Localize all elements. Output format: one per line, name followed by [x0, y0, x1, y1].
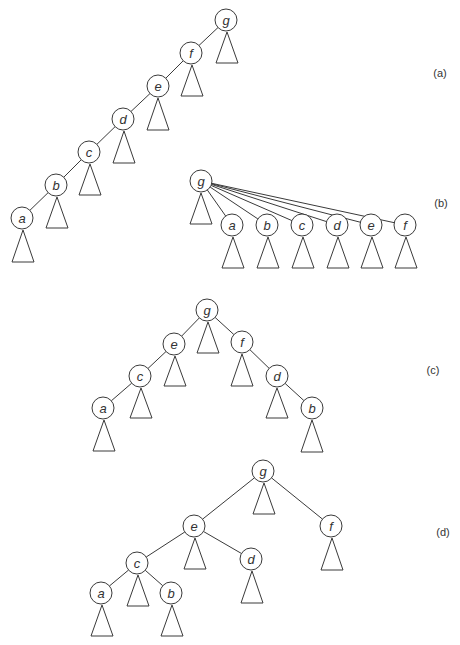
subtree-triangle-icon [113, 131, 135, 163]
subtree-triangle-icon [79, 164, 101, 195]
edge-b-a [30, 193, 48, 211]
edge-g-f [272, 478, 323, 519]
node-label: d [119, 112, 127, 127]
panel-label: (b) [434, 197, 447, 209]
subtree-triangle-icon [222, 237, 244, 268]
subtree-triangle-icon [266, 388, 288, 418]
subtree-triangle-icon [181, 65, 203, 96]
node-label: a [18, 211, 25, 226]
node-label: g [259, 464, 267, 479]
tree-node-f: f [231, 331, 253, 353]
edge-g-c [211, 185, 292, 220]
tree-diagram-figure: gfedcba(a) gabcdef(b) gefcdab(c) gefcdab… [0, 0, 460, 645]
subtree-triangle-icon [327, 237, 349, 268]
node-label: e [367, 218, 374, 233]
tree-node-a: a [11, 207, 33, 229]
tree-node-g: g [196, 299, 218, 321]
edge-g-e [203, 478, 255, 519]
tree-node-d: d [240, 548, 262, 570]
node-label: b [52, 178, 59, 193]
tree-node-e: e [147, 75, 169, 97]
node-label: b [308, 401, 315, 416]
tree-node-g: g [190, 170, 212, 192]
edge-c-a [111, 383, 131, 401]
tree-node-f: f [180, 42, 202, 64]
edge-g-a [207, 190, 225, 216]
tree-node-g: g [215, 9, 237, 31]
subtree-triangle-icon [147, 98, 169, 130]
edge-d-c [97, 127, 115, 145]
panel-label: (d) [436, 526, 449, 538]
node-label: b [167, 586, 174, 601]
subtree-triangle-icon [197, 322, 219, 353]
edge-e-d [131, 94, 150, 112]
panel-b-flat-star-tree: gabcdef(b) [190, 170, 448, 268]
node-label: d [333, 218, 341, 233]
edge-g-e [182, 318, 200, 336]
subtree-triangle-icon [130, 388, 152, 418]
subtree-triangle-icon [46, 197, 68, 228]
subtree-triangle-icon [257, 237, 279, 268]
panel-label: (c) [427, 364, 440, 376]
edge-d-b [285, 383, 304, 400]
tree-node-f: f [394, 214, 416, 236]
tree-node-c: c [129, 365, 151, 387]
subtree-triangle-icon [395, 237, 417, 268]
tree-node-e: e [360, 214, 382, 236]
subtree-triangle-icon [241, 571, 263, 603]
edge-e-c [146, 532, 185, 557]
tree-node-b: b [256, 214, 278, 236]
edge-c-b [64, 160, 81, 177]
tree-node-c: c [291, 214, 313, 236]
edge-f-e [166, 61, 183, 78]
node-label: g [203, 303, 211, 318]
tree-node-c: c [126, 552, 148, 574]
subtree-triangle-icon [164, 356, 186, 386]
edge-e-c [148, 352, 166, 369]
tree-node-b: b [301, 397, 323, 419]
node-label: c [86, 145, 93, 160]
tree-node-a: a [221, 214, 243, 236]
subtree-triangle-icon [361, 237, 383, 268]
edge-g-f [199, 28, 218, 46]
subtree-triangle-icon [253, 483, 275, 514]
tree-node-c: c [78, 141, 100, 163]
subtree-triangle-icon [161, 605, 183, 636]
panel-d-restructured-tree: gefcdab(d) [90, 460, 450, 636]
subtree-triangle-icon [216, 32, 238, 63]
subtree-triangle-icon [127, 575, 149, 606]
node-label: c [137, 369, 144, 384]
subtree-triangle-icon [190, 193, 212, 224]
tree-node-d: d [326, 214, 348, 236]
panel-label: (a) [433, 67, 446, 79]
tree-node-b: b [160, 582, 182, 604]
subtree-triangle-icon [231, 354, 253, 386]
node-label: c [299, 218, 306, 233]
node-label: e [154, 79, 161, 94]
subtree-triangle-icon [184, 538, 206, 569]
tree-node-g: g [252, 460, 274, 482]
tree-node-e: e [163, 333, 185, 355]
subtree-triangle-icon [321, 538, 343, 570]
tree-node-d: d [266, 365, 288, 387]
edge-g-f [215, 317, 234, 334]
node-label: c [134, 556, 141, 571]
tree-node-f: f [320, 515, 342, 537]
tree-node-b: b [45, 174, 67, 196]
subtree-triangle-icon [91, 605, 113, 636]
node-label: e [190, 519, 197, 534]
tree-node-e: e [183, 515, 205, 537]
edge-c-a [109, 570, 128, 586]
node-label: d [247, 552, 255, 567]
tree-node-a: a [92, 397, 114, 419]
subtree-triangle-icon [301, 420, 323, 452]
tree-node-a: a [90, 582, 112, 604]
subtree-triangle-icon [12, 230, 34, 262]
subtree-triangle-icon [93, 420, 115, 451]
panel-c-balanced-tree: gefcdab(c) [92, 299, 439, 452]
subtree-triangle-icon [292, 237, 314, 268]
node-label: e [170, 337, 177, 352]
edge-f-d [250, 350, 269, 369]
node-label: a [228, 218, 235, 233]
node-label: g [222, 13, 230, 28]
